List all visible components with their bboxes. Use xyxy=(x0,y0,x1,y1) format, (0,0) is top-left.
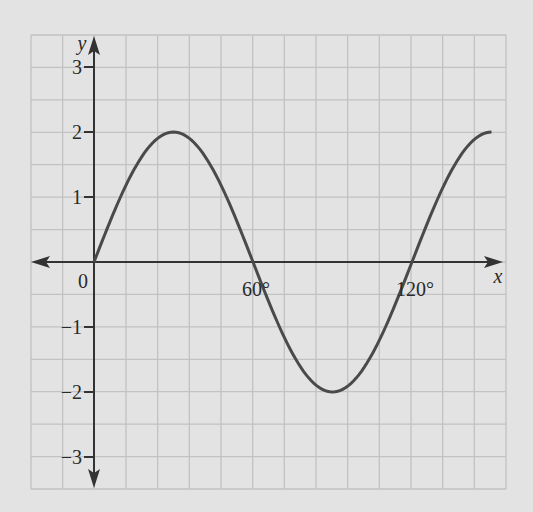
x-tick-label: 0 xyxy=(78,270,88,292)
y-tick-label: −1 xyxy=(61,316,82,338)
y-tick-label: 2 xyxy=(72,121,82,143)
y-tick-label: −3 xyxy=(61,446,82,468)
x-tick-label: 60° xyxy=(242,278,270,300)
y-axis-label: y xyxy=(76,32,87,55)
tick-labels: 321−1−2−3060°120°xy xyxy=(61,32,503,468)
sine-graph: 321−1−2−3060°120°xy xyxy=(0,0,533,512)
x-axis-label: x xyxy=(493,265,503,287)
y-tick-label: 3 xyxy=(72,56,82,78)
x-tick-label: 120° xyxy=(396,278,434,300)
y-tick-label: 1 xyxy=(72,186,82,208)
axes xyxy=(31,36,503,488)
y-tick-label: −2 xyxy=(61,381,82,403)
